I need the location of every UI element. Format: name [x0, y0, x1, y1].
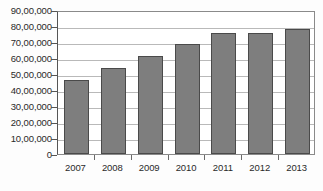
- bar-2011: [211, 33, 236, 154]
- bar-2008: [101, 68, 126, 154]
- x-axis-tick-label: 2011: [213, 162, 233, 173]
- y-axis-tick-label: 80,00,000: [11, 22, 52, 32]
- y-axis-tick-label: 50,00,000: [11, 70, 52, 80]
- x-axis-tick-mark: [168, 155, 169, 160]
- y-axis-tick-label: 20,00,000: [11, 118, 52, 128]
- x-axis-tick-mark: [131, 155, 132, 160]
- x-axis-tick-label: 2010: [176, 162, 197, 173]
- x-axis-tick-label: 2008: [102, 162, 123, 173]
- y-axis-tick-mark: [51, 155, 57, 156]
- x-axis-tick-mark: [204, 155, 205, 160]
- y-axis-tick-label: 60,00,000: [11, 54, 52, 64]
- y-axis: 90,00,00080,00,00070,00,00060,00,00050,0…: [0, 0, 56, 191]
- x-axis: 2007200820092010201120122013: [57, 162, 315, 184]
- plot-area: [57, 11, 315, 155]
- bars-group: [58, 12, 314, 154]
- x-axis-tick-mark: [94, 155, 95, 160]
- x-axis-tick-label: 2013: [286, 162, 307, 173]
- x-axis-tick-mark: [241, 155, 242, 160]
- bar-2007: [64, 80, 89, 154]
- y-axis-tick-label: 90,00,000: [11, 6, 52, 16]
- y-axis-tick-label: 70,00,000: [11, 38, 52, 48]
- y-axis-tick-label: 10,00,000: [11, 134, 52, 144]
- x-axis-tick-mark: [278, 155, 279, 160]
- bar-2013: [285, 29, 310, 154]
- y-axis-tick-label: 40,00,000: [11, 86, 52, 96]
- x-axis-tick-label: 2007: [65, 162, 86, 173]
- bar-chart: 90,00,00080,00,00070,00,00060,00,00050,0…: [0, 0, 323, 191]
- bar-2012: [248, 33, 273, 154]
- x-axis-tick-label: 2009: [139, 162, 160, 173]
- bar-2009: [138, 56, 163, 154]
- y-axis-tick-label: 30,00,000: [11, 102, 52, 112]
- x-axis-tick-label: 2012: [249, 162, 270, 173]
- bar-2010: [175, 44, 200, 154]
